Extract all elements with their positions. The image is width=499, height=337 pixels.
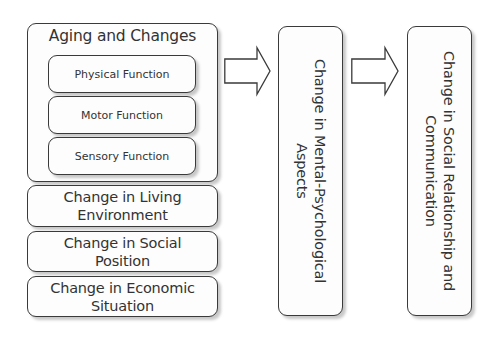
mental-psychological-line2: Aspects	[293, 30, 311, 312]
social-position-box: Change in Social Position	[27, 231, 218, 272]
economic-situation-box: Change in Economic Situation	[27, 276, 218, 317]
living-environment-line2: Environment	[77, 206, 167, 224]
social-position-line1: Change in Social	[64, 234, 182, 252]
right-block-arrow-icon	[224, 47, 272, 97]
physical-function-label: Physical Function	[74, 68, 169, 81]
social-relationship-label: Change in Social Relationship and Commun…	[422, 30, 458, 312]
right-block-arrow-icon	[351, 47, 399, 97]
social-relationship-box: Change in Social Relationship and Commun…	[407, 26, 472, 316]
sensory-function-box: Sensory Function	[48, 137, 196, 175]
economic-situation-line2: Situation	[91, 297, 154, 315]
aging-group-title: Aging and Changes	[28, 27, 217, 45]
social-position-line2: Position	[95, 252, 150, 270]
mental-psychological-label: Change in Mental-Psychological Aspects	[293, 30, 329, 312]
social-relationship-line2: Communication	[422, 30, 440, 312]
sensory-function-label: Sensory Function	[75, 150, 170, 163]
motor-function-label: Motor Function	[81, 109, 163, 122]
motor-function-box: Motor Function	[48, 96, 196, 134]
mental-psychological-box: Change in Mental-Psychological Aspects	[278, 26, 343, 316]
economic-situation-line1: Change in Economic	[50, 279, 195, 297]
living-environment-box: Change in Living Environment	[27, 185, 218, 227]
mental-psychological-line1: Change in Mental-Psychological	[311, 30, 329, 312]
living-environment-line1: Change in Living	[64, 188, 182, 206]
social-relationship-line1: Change in Social Relationship and	[440, 30, 458, 312]
physical-function-box: Physical Function	[48, 55, 196, 93]
